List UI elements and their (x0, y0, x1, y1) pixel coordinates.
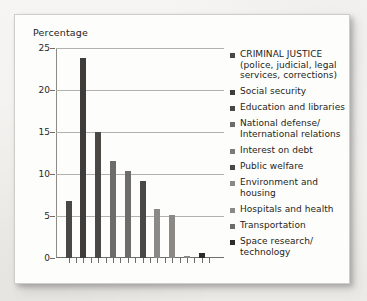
legend-swatch-icon (230, 240, 235, 245)
bar (80, 58, 86, 258)
gridline-25 (56, 48, 224, 49)
y-tick-mark-0 (50, 258, 55, 259)
legend-item-label: Transportation (240, 220, 306, 231)
y-axis-title: Percentage (33, 27, 88, 38)
bar (140, 181, 146, 258)
y-tick-mark-25 (50, 48, 55, 49)
legend-swatch-icon (230, 122, 235, 127)
legend-item[interactable]: Environment and housing (230, 177, 345, 198)
x-tick-mark-minor (76, 258, 77, 263)
y-tick-mark-10 (50, 174, 55, 175)
x-tick-mark (202, 258, 203, 263)
legend-item[interactable]: Space research/ technology (230, 236, 345, 257)
x-tick-mark (143, 258, 144, 263)
plot-area (56, 48, 224, 258)
legend-item-label: National defense/ International relation… (240, 118, 340, 139)
legend-swatch-icon (230, 208, 235, 213)
bar (125, 171, 131, 258)
y-tick-mark-20 (50, 90, 55, 91)
x-tick-mark (113, 258, 114, 263)
bar (169, 215, 175, 258)
legend-item-label: Social security (240, 86, 306, 97)
y-axis-tick-labels: 0510152025 (15, 48, 50, 258)
legend-item[interactable]: Education and libraries (230, 102, 345, 113)
y-tick-label-15: 15 (39, 127, 50, 137)
x-tick-mark-minor (194, 258, 195, 263)
x-tick-mark-minor (106, 258, 107, 263)
legend-item[interactable]: Transportation (230, 220, 345, 231)
legend-swatch-icon (230, 149, 235, 154)
legend-item-label: Interest on debt (240, 145, 313, 156)
legend-item-label: CRIMINAL JUSTICE (police, judicial, lega… (240, 49, 337, 81)
x-tick-mark-minor (135, 258, 136, 263)
legend-item-label: Hospitals and health (240, 204, 334, 215)
y-tick-label-10: 10 (39, 169, 50, 179)
legend-item[interactable]: Hospitals and health (230, 204, 345, 215)
legend-item[interactable]: Public welfare (230, 161, 345, 172)
legend-swatch-icon (230, 90, 235, 95)
legend-item-label: Space research/ technology (240, 236, 313, 257)
x-tick-mark-minor (209, 258, 210, 263)
x-tick-mark (172, 258, 173, 263)
y-tick-mark-5 (50, 216, 55, 217)
x-tick-mark (69, 258, 70, 263)
x-tick-mark-minor (180, 258, 181, 263)
legend-item-label: Public welfare (240, 161, 303, 172)
y-tick-label-20: 20 (39, 85, 50, 95)
legend-swatch-icon (230, 181, 235, 186)
x-tick-mark (187, 258, 188, 263)
x-tick-mark-minor (120, 258, 121, 263)
x-tick-mark (83, 258, 84, 263)
y-tick-label-25: 25 (39, 43, 50, 53)
bar (95, 132, 101, 258)
x-tick-mark (98, 258, 99, 263)
bar (110, 161, 116, 258)
legend-item[interactable]: Social security (230, 86, 345, 97)
x-tick-mark (157, 258, 158, 263)
legend-swatch-icon (230, 53, 235, 58)
figure-page: Percentage 0510152025 CRIMINAL JUSTICE (… (0, 0, 367, 301)
bar (154, 209, 160, 258)
legend-item[interactable]: CRIMINAL JUSTICE (police, judicial, lega… (230, 49, 345, 81)
legend-item-label: Environment and housing (240, 177, 318, 198)
x-tick-mark (128, 258, 129, 263)
figure-panel: Percentage 0510152025 CRIMINAL JUSTICE (… (14, 14, 350, 284)
y-tick-mark-15 (50, 132, 55, 133)
x-tick-mark-minor (150, 258, 151, 263)
legend-swatch-icon (230, 224, 235, 229)
legend-item-label: Education and libraries (240, 102, 345, 113)
x-tick-mark-minor (91, 258, 92, 263)
legend-item[interactable]: National defense/ International relation… (230, 118, 345, 139)
x-tick-mark-minor (165, 258, 166, 263)
legend-item[interactable]: Interest on debt (230, 145, 345, 156)
bar-chart-figure: Percentage 0510152025 CRIMINAL JUSTICE (… (15, 15, 349, 283)
legend: CRIMINAL JUSTICE (police, judicial, lega… (230, 49, 345, 263)
legend-swatch-icon (230, 106, 235, 111)
legend-swatch-icon (230, 165, 235, 170)
bar (66, 201, 72, 258)
